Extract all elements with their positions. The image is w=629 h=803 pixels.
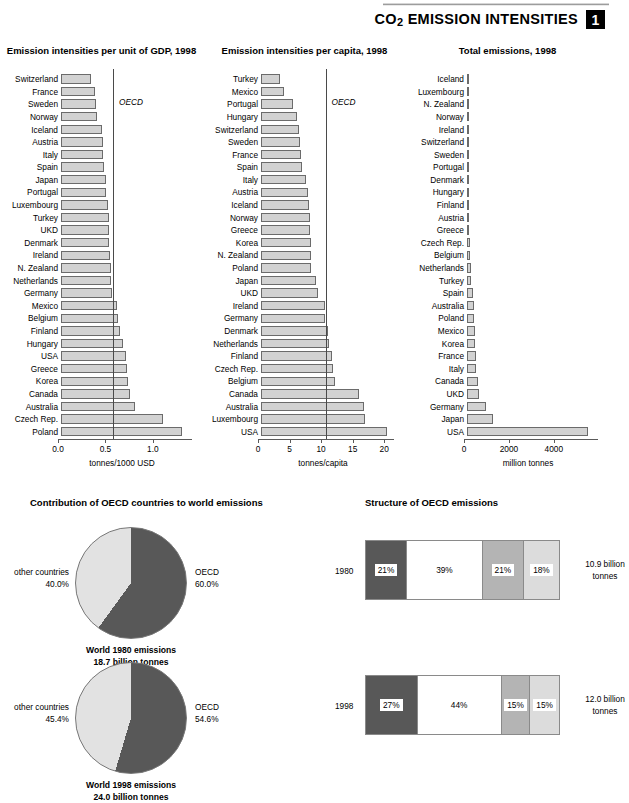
bar-category-label: Korea: [0, 377, 61, 385]
bar-track: [261, 186, 402, 199]
bar: [61, 125, 102, 134]
x-axis-tick-label: 15: [348, 444, 357, 454]
bar-category-label: Iceland: [203, 201, 261, 209]
x-axis-tick-label: 2000: [500, 444, 518, 454]
bar: [61, 276, 111, 285]
bar-category-label: Netherlands: [406, 264, 467, 272]
bar-row: Belgium: [406, 249, 606, 262]
bar-row: Japan: [0, 174, 200, 187]
bar-category-label: Iceland: [0, 126, 61, 134]
bar-category-label: Portugal: [203, 100, 261, 108]
bar-row: Netherlands: [203, 337, 402, 350]
bar: [261, 414, 365, 423]
bar-row: Finland: [406, 199, 606, 212]
bar-track: [467, 174, 606, 187]
bar-track: [467, 388, 606, 401]
bar: [261, 125, 299, 134]
stacked-bar-segment-label: 44%: [448, 699, 471, 711]
bar-row: Sweden: [0, 98, 200, 111]
bar-row: Netherlands: [406, 262, 606, 275]
bar: [61, 150, 103, 159]
bar-track: [61, 426, 200, 439]
pie-label-other-value: 45.4%: [14, 713, 69, 725]
bar: [261, 99, 293, 108]
page-title-main: CO: [375, 11, 397, 27]
bar: [61, 200, 108, 209]
stacked-bar-segment-label: 15%: [504, 699, 527, 711]
bar-track: [61, 123, 200, 136]
bar-track: [61, 363, 200, 376]
bar-row: Portugal: [0, 186, 200, 199]
bar-category-label: Czech Rep.: [406, 239, 467, 247]
bar-category-label: Austria: [406, 214, 467, 222]
bar-row: Poland: [203, 262, 402, 275]
bar: [467, 364, 476, 373]
bar-category-label: USA: [203, 428, 261, 436]
bar-track: [467, 73, 606, 86]
bar: [61, 351, 126, 360]
bar-track: [261, 237, 402, 250]
bar-category-label: Portugal: [0, 188, 61, 196]
bar-track: [261, 149, 402, 162]
bar-track: [261, 136, 402, 149]
bar: [261, 288, 318, 297]
bar-track: [61, 337, 200, 350]
bar-track: [61, 237, 200, 250]
pie-chart-pie1980: [75, 527, 187, 639]
bar: [261, 326, 328, 335]
bar-category-label: Hungary: [406, 188, 467, 196]
pie-label-other: other countries45.4%: [14, 701, 69, 725]
bar-category-label: Italy: [0, 151, 61, 159]
bar: [61, 99, 96, 108]
bar-row: Norway: [406, 111, 606, 124]
bar-track: [61, 186, 200, 199]
bar: [261, 427, 387, 436]
bar: [61, 74, 91, 83]
stack-total-label: 10.9 billiontonnes: [570, 558, 629, 582]
pie-label-oecd-value: 54.6%: [195, 713, 219, 725]
pie-caption: World 1998 emissions24.0 billion tonnes: [41, 779, 221, 803]
bar: [261, 238, 311, 247]
chart-plot-gdp: SwitzerlandFranceSwedenNorwayIcelandAust…: [0, 73, 200, 438]
bar-row: Norway: [0, 111, 200, 124]
bar: [261, 188, 308, 197]
bar-track: [261, 325, 402, 338]
page-title: CO2 EMISSION INTENSITIES: [375, 11, 578, 28]
bar-track: [261, 388, 402, 401]
x-axis-tickmark: [321, 440, 322, 443]
bar-category-label: Germany: [406, 403, 467, 411]
bar-category-label: Australia: [406, 302, 467, 310]
pie-label-other-value: 40.0%: [14, 578, 69, 590]
bar-track: [61, 400, 200, 413]
bar-row: Turkey: [203, 73, 402, 86]
bar-track: [467, 161, 606, 174]
bar: [467, 414, 493, 423]
stacked-bar-segment-label: 21%: [375, 564, 398, 576]
bar-row: Canada: [203, 388, 402, 401]
bar: [467, 99, 469, 108]
bar-category-label: France: [0, 88, 61, 96]
bar-category-label: Switzerland: [0, 75, 61, 83]
bar: [61, 188, 106, 197]
bar-category-label: Canada: [406, 377, 467, 385]
chart-title-per-capita: Emission intensities per capita, 1998: [203, 45, 406, 56]
x-axis-tickmark: [384, 440, 385, 443]
x-axis-line: [258, 439, 394, 440]
bar: [261, 402, 364, 411]
bar-row: USA: [0, 350, 200, 363]
chart-panel-total: Total emissions, 1998IcelandLuxembourgN.…: [406, 45, 609, 445]
page-title-rest: EMISSION INTENSITIES: [403, 11, 578, 27]
pie-label-other-name: other countries: [14, 566, 69, 578]
bar: [467, 276, 471, 285]
chart-panel-per-capita: Emission intensities per capita, 1998Tur…: [203, 45, 406, 445]
stacked-bar-segment-label: 21%: [492, 564, 515, 576]
pie-label-oecd-value: 60.0%: [195, 578, 219, 590]
bar-row: Czech Rep.: [0, 413, 200, 426]
bar-track: [261, 426, 402, 439]
x-axis-tick-label: 1.0: [147, 444, 159, 454]
bar: [261, 175, 306, 184]
bar-row: Austria: [0, 136, 200, 149]
bar-row: Norway: [203, 212, 402, 225]
bar-category-label: Norway: [0, 113, 61, 121]
bar-category-label: Hungary: [0, 340, 61, 348]
